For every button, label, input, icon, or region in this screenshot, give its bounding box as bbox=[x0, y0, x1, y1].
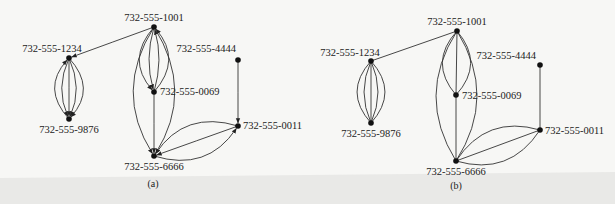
node-0069 bbox=[151, 89, 157, 95]
edge-6666-0011 bbox=[456, 130, 540, 165]
edge-6666-0011 bbox=[456, 126, 540, 161]
node-6666 bbox=[453, 158, 459, 164]
node-label-0069: 732-555-0069 bbox=[462, 90, 522, 101]
caption-b: (b) bbox=[450, 180, 462, 192]
node-0069 bbox=[453, 92, 459, 98]
edge-0011-6666 bbox=[156, 122, 238, 154]
node-label-4444: 732-555-4444 bbox=[477, 50, 537, 61]
node-label-0069: 732-555-0069 bbox=[160, 86, 220, 97]
edge-1001-6666 bbox=[133, 27, 154, 153]
edge-1234-9876 bbox=[69, 58, 76, 116]
node-label-9876: 732-555-9876 bbox=[341, 128, 401, 139]
node-6666 bbox=[151, 153, 157, 159]
node-label-6666: 732-555-6666 bbox=[124, 161, 184, 172]
node-0011 bbox=[537, 127, 543, 133]
edge-0011-6666 bbox=[157, 126, 238, 155]
graph-b: 732-555-1001732-555-1234732-555-9876732-… bbox=[320, 16, 604, 177]
node-1001 bbox=[151, 24, 157, 30]
edge-1001-0069 bbox=[456, 31, 471, 95]
node-label-0011: 732-555-0011 bbox=[243, 120, 302, 131]
node-label-1234: 732-555-1234 bbox=[320, 47, 380, 58]
edge-1234-9876 bbox=[371, 61, 378, 123]
node-9876 bbox=[368, 120, 374, 126]
call-graph-figure: 732-555-1001732-555-1234732-555-9876732-… bbox=[0, 0, 615, 204]
edge-1001-0069 bbox=[442, 31, 457, 95]
edge-1234-9876 bbox=[364, 61, 371, 123]
node-label-1234: 732-555-1234 bbox=[22, 43, 82, 54]
node-label-6666: 732-555-6666 bbox=[426, 166, 486, 177]
edge-0069-1001 bbox=[154, 30, 159, 92]
page-shadow bbox=[0, 172, 615, 204]
edge-1001-0069 bbox=[149, 27, 154, 89]
node-1234 bbox=[368, 58, 374, 64]
edge-1001-0069 bbox=[456, 31, 457, 95]
node-9876 bbox=[66, 116, 72, 122]
node-label-0011: 732-555-0011 bbox=[545, 125, 604, 136]
node-4444 bbox=[235, 57, 241, 63]
node-label-1001: 732-555-1001 bbox=[124, 12, 184, 23]
node-1234 bbox=[66, 55, 72, 61]
node-label-4444: 732-555-4444 bbox=[177, 43, 237, 54]
edge-1001-1234 bbox=[72, 27, 154, 57]
graph-a: 732-555-1001732-555-1234732-555-9876732-… bbox=[22, 12, 302, 172]
node-0011 bbox=[235, 123, 241, 129]
edge-1234-9876 bbox=[62, 58, 69, 116]
node-label-9876: 732-555-9876 bbox=[39, 124, 99, 135]
node-label-1001: 732-555-1001 bbox=[427, 16, 487, 27]
node-4444 bbox=[537, 62, 543, 68]
node-1001 bbox=[454, 28, 460, 34]
caption-a: (a) bbox=[147, 178, 158, 190]
